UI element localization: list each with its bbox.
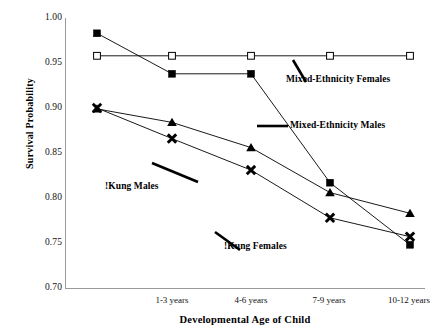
data-point: [407, 52, 414, 59]
data-point: [94, 30, 101, 37]
series-mixed-ethnicity-females: [94, 52, 414, 59]
x-tick-label-3: 7-9 years: [286, 295, 372, 305]
data-point: [327, 52, 334, 59]
x-axis-title: Developmental Age of Child: [65, 314, 425, 325]
x-tick-label-4: 10-12 years: [366, 295, 432, 305]
x-tick-label-1: 1-3 years: [129, 295, 215, 305]
data-point: [168, 134, 176, 142]
data-point: [407, 241, 414, 248]
annotation-kung-females: !Kung Females: [224, 241, 287, 251]
data-point: [406, 233, 414, 241]
data-point: [169, 70, 176, 77]
y-axis-title: Survival Probability: [24, 44, 35, 204]
survival-probability-chart: 1.00 0.95 0.90 0.85 0.80 0.75 0.70 1-3 y…: [0, 0, 432, 336]
data-point: [327, 179, 334, 186]
data-point: [94, 52, 101, 59]
series-line: [97, 33, 410, 245]
annotation-kung-males: !Kung Males: [105, 181, 159, 191]
leader-kung-males: [152, 163, 198, 182]
annotation-mixed-ethnicity-females: Mixed-Ethnicity Females: [286, 74, 390, 84]
series-mixed-ethnicity-males: [94, 30, 414, 248]
data-point: [248, 70, 255, 77]
data-point: [246, 143, 256, 151]
x-tick-label-2: 4-6 years: [208, 295, 294, 305]
data-point: [247, 166, 255, 174]
data-point: [326, 214, 334, 222]
plot-area: [0, 0, 432, 336]
annotation-mixed-ethnicity-males: Mixed-Ethnicity Males: [290, 120, 385, 130]
data-point: [169, 52, 176, 59]
data-point: [325, 188, 335, 196]
data-point: [248, 52, 255, 59]
